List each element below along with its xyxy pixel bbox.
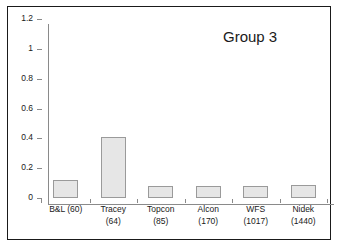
bar-chart-figure: Group 3 00.20.40.60.811.2 B&L (60)Tracey…	[0, 0, 345, 250]
bar	[196, 186, 221, 198]
x-tick-label: Topcon (85)	[137, 204, 185, 227]
y-tick-label: 0.4	[8, 133, 33, 142]
x-tick-mark	[41, 199, 42, 203]
plot-area	[42, 19, 327, 198]
bar	[291, 185, 316, 198]
x-tick-mark	[232, 199, 233, 203]
y-tick-label: 0.6	[8, 104, 33, 113]
chart-frame: Group 3 00.20.40.60.811.2 B&L (60)Tracey…	[7, 6, 331, 240]
y-tick-label: 0.2	[8, 163, 33, 172]
y-tick-label: 0.8	[8, 74, 33, 83]
x-tick-mark	[327, 199, 328, 203]
y-tick-label: 0	[8, 193, 33, 202]
x-tick-label: B&L (60)	[42, 204, 90, 216]
y-tick-label: 1.2	[8, 14, 33, 23]
bar	[243, 186, 268, 198]
x-tick-label: Nidek (1440)	[280, 204, 328, 227]
y-tick-label: 1	[8, 44, 33, 53]
x-tick-label: Tracey (64)	[90, 204, 138, 227]
x-tick-mark	[185, 199, 186, 203]
x-tick-mark	[280, 199, 281, 203]
x-tick-mark	[137, 199, 138, 203]
x-tick-label: WFS (1017)	[232, 204, 280, 227]
bar	[53, 180, 78, 198]
bar	[101, 137, 126, 198]
x-tick-label: Alcon (170)	[185, 204, 233, 227]
bar	[148, 186, 173, 198]
x-tick-mark	[90, 199, 91, 203]
